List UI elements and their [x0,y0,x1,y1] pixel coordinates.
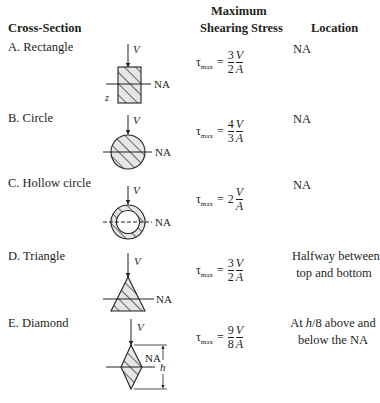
z-axis-label: z [104,92,109,103]
triangle-shape [111,277,145,311]
neutral-axis-label: NA [154,78,170,90]
neutral-axis-label: NA [155,146,171,158]
shear-force-label: V [137,321,145,333]
shear-force-label: V [134,255,142,267]
rectangle-figure: V NA z [104,43,170,103]
neutral-axis-label: NA [155,216,171,228]
neutral-axis-label: NA [145,352,161,364]
rectangle-shape [118,67,141,103]
shear-force-label: V [133,114,141,126]
height-label: h [160,361,166,373]
diamond-figure: V NA h [106,319,167,389]
circle-figure: V NA [103,114,171,169]
neutral-axis-label: NA [156,293,172,305]
shear-force-label: V [133,184,141,196]
triangle-figure: V NA [103,253,172,311]
hollow-circle-figure: V NA [103,184,171,239]
shear-force-label: V [133,43,141,55]
